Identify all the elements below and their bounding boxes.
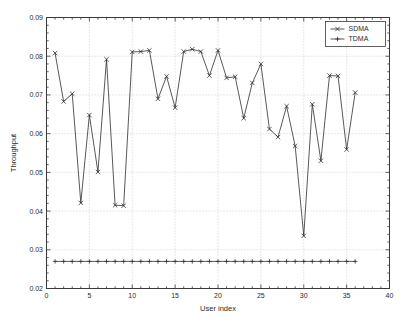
series-tdma (53, 259, 358, 263)
x-tick-label: 0 (45, 292, 49, 299)
grid-layer (47, 18, 390, 289)
x-tick-label: 20 (214, 292, 222, 299)
figure-canvas: 05101520253035400.020.030.040.050.060.07… (0, 0, 408, 328)
y-tick-label: 0.02 (29, 285, 43, 292)
series-polyline (55, 49, 355, 236)
y-axis-title: Throughput (9, 133, 18, 172)
y-tick-label: 0.06 (29, 130, 43, 137)
y-tick-label: 0.08 (29, 53, 43, 60)
legend-label-tdma[interactable]: TDMA (349, 35, 369, 42)
y-tick-label: 0.03 (29, 246, 43, 253)
y-tick-label: 0.05 (29, 169, 43, 176)
y-tick-label: 0.04 (29, 208, 43, 215)
chart-legend[interactable]: SDMATDMA (326, 22, 386, 47)
x-tick-label: 40 (386, 292, 394, 299)
x-tick-label: 25 (257, 292, 265, 299)
series-sdma (53, 47, 358, 238)
y-tick-label: 0.07 (29, 91, 43, 98)
data-series-layer (53, 47, 358, 264)
x-tick-label: 15 (171, 292, 179, 299)
legend-label-sdma[interactable]: SDMA (349, 25, 370, 32)
x-tick-label: 30 (300, 292, 308, 299)
y-tick-label: 0.09 (29, 14, 43, 21)
axis-labels-layer: 05101520253035400.020.030.040.050.060.07… (9, 14, 393, 313)
x-tick-label: 10 (128, 292, 136, 299)
x-tick-label: 5 (87, 292, 91, 299)
x-axis-title: User index (200, 304, 236, 313)
throughput-line-chart: 05101520253035400.020.030.040.050.060.07… (0, 0, 408, 328)
x-tick-label: 35 (343, 292, 351, 299)
